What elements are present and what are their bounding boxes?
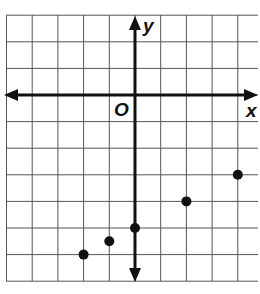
origin-label: O <box>114 99 129 120</box>
coordinate-plane: y x O <box>0 0 260 294</box>
data-point <box>181 196 191 206</box>
data-point <box>233 170 243 180</box>
y-axis-down-arrow-icon <box>129 268 141 282</box>
data-point <box>79 250 89 260</box>
data-point <box>130 223 140 233</box>
y-axis-up-arrow-icon <box>129 16 141 30</box>
grid-lines <box>6 15 258 281</box>
y-axis-label: y <box>142 15 155 36</box>
axes <box>4 16 258 282</box>
data-point <box>104 236 114 246</box>
x-axis-label: x <box>245 100 258 121</box>
